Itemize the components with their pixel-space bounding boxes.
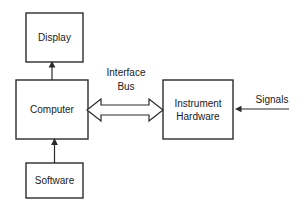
block-diagram: Display Computer Software Instrument Har… — [0, 0, 306, 214]
node-computer-label: Computer — [30, 104, 75, 115]
diagram-canvas: Display Computer Software Instrument Har… — [0, 0, 306, 214]
signals-arrowhead — [235, 106, 242, 112]
edge-interface-bus: Interface Bus — [87, 67, 163, 121]
edge-signals-to-instrument: Signals — [235, 94, 289, 113]
node-instrument-hardware: Instrument Hardware — [163, 80, 233, 139]
edge-computer-to-display — [49, 61, 56, 80]
node-display: Display — [26, 13, 83, 62]
signals-label: Signals — [256, 94, 289, 105]
interface-bus-label-line2: Bus — [117, 81, 134, 92]
node-display-label: Display — [38, 32, 71, 43]
node-software: Software — [26, 163, 83, 198]
edge-software-to-computer — [51, 138, 58, 163]
node-instrument-hardware-label-line1: Instrument — [174, 98, 221, 109]
interface-bus-block-arrow — [87, 99, 163, 121]
interface-bus-label-line1: Interface — [107, 67, 146, 78]
node-instrument-hardware-label-line2: Hardware — [176, 111, 220, 122]
node-software-label: Software — [35, 175, 75, 186]
node-computer: Computer — [16, 80, 88, 139]
node-instrument-hardware-rect — [163, 80, 233, 139]
